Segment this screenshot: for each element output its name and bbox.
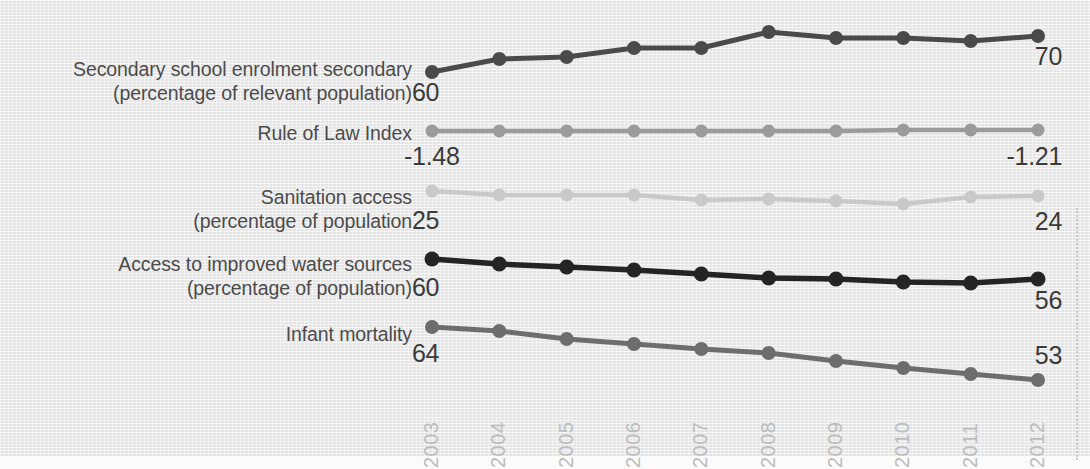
series-start-value-1: -1.48 [404, 144, 459, 169]
data-point-marker[interactable] [830, 125, 843, 138]
year-tick-2006: 2006 [623, 422, 643, 469]
data-point-marker[interactable] [896, 275, 911, 290]
series-label-line2: (percentage of population) [0, 276, 412, 300]
series-end-value-2: 24 [902, 209, 1062, 234]
series-label-line1: Access to improved water sources [0, 252, 412, 276]
data-point-marker[interactable] [896, 361, 910, 375]
series-start-value-0: 60 [412, 80, 439, 105]
series-end-value-4: 53 [902, 343, 1062, 368]
data-point-marker[interactable] [1032, 124, 1045, 137]
data-point-marker[interactable] [1032, 190, 1045, 203]
data-point-marker[interactable] [493, 125, 506, 138]
sparkline-path [432, 191, 1038, 204]
year-tick-2008: 2008 [758, 422, 778, 469]
series-label-line2: (percentage of relevant population) [0, 81, 412, 105]
year-tick-2011: 2011 [960, 423, 980, 468]
data-point-marker[interactable] [492, 324, 506, 338]
year-tick-2003: 2003 [421, 422, 441, 469]
data-point-marker[interactable] [1031, 29, 1045, 43]
year-tick-2012: 2012 [1027, 422, 1047, 469]
data-point-marker[interactable] [559, 260, 574, 275]
data-point-marker[interactable] [425, 252, 440, 267]
series-label-2: Sanitation access(percentage of populati… [0, 185, 412, 233]
series-label-line1: Sanitation access [0, 185, 412, 209]
series-start-value-2: 25 [412, 208, 439, 233]
data-point-marker[interactable] [560, 125, 573, 138]
series-label-0: Secondary school enrolment secondary(per… [0, 57, 412, 105]
sparkline-path [432, 259, 1038, 283]
data-point-marker[interactable] [1031, 272, 1046, 287]
data-point-marker[interactable] [695, 194, 708, 207]
data-point-marker[interactable] [830, 195, 843, 208]
series-label-4: Infant mortality [0, 322, 412, 346]
data-point-marker[interactable] [695, 125, 708, 138]
series-end-value-3: 56 [902, 288, 1062, 313]
data-point-marker[interactable] [829, 31, 843, 45]
data-point-marker[interactable] [426, 185, 439, 198]
series-label-line2: (percentage of population [0, 209, 412, 233]
year-tick-2007: 2007 [690, 422, 710, 469]
series-end-value-1: -1.21 [902, 144, 1062, 169]
data-point-marker[interactable] [761, 271, 776, 286]
data-point-marker[interactable] [425, 320, 439, 334]
series-start-value-3: 60 [412, 275, 439, 300]
data-point-marker[interactable] [897, 124, 910, 137]
data-point-marker[interactable] [896, 31, 910, 45]
data-point-marker[interactable] [762, 193, 775, 206]
year-tick-2005: 2005 [556, 422, 576, 469]
series-label-line1: Secondary school enrolment secondary [0, 57, 412, 81]
data-point-marker[interactable] [762, 346, 776, 360]
data-point-marker[interactable] [627, 263, 642, 278]
series-end-value-0: 70 [902, 44, 1062, 69]
data-point-marker[interactable] [694, 41, 708, 55]
data-point-marker[interactable] [694, 267, 709, 282]
data-point-marker[interactable] [694, 342, 708, 356]
data-point-marker[interactable] [628, 125, 641, 138]
data-point-marker[interactable] [964, 124, 977, 137]
data-point-marker[interactable] [1031, 373, 1045, 387]
year-tick-2009: 2009 [825, 422, 845, 469]
series-label-1: Rule of Law Index [0, 121, 412, 145]
data-point-marker[interactable] [426, 125, 439, 138]
data-point-marker[interactable] [560, 332, 574, 346]
series-label-line1: Infant mortality [0, 322, 412, 346]
data-point-marker[interactable] [964, 367, 978, 381]
data-point-marker[interactable] [560, 50, 574, 64]
data-point-marker[interactable] [560, 189, 573, 202]
series-start-value-4: 64 [412, 341, 439, 366]
data-point-marker[interactable] [762, 125, 775, 138]
data-point-marker[interactable] [628, 189, 641, 202]
data-point-marker[interactable] [493, 189, 506, 202]
data-point-marker[interactable] [829, 272, 844, 287]
data-point-marker[interactable] [897, 198, 910, 211]
data-point-marker[interactable] [627, 41, 641, 55]
data-point-marker[interactable] [964, 34, 978, 48]
dotted-vertical-rule [1076, 208, 1078, 460]
sparkline-path [432, 130, 1038, 131]
series-label-3: Access to improved water sources(percent… [0, 252, 412, 300]
data-point-marker[interactable] [829, 354, 843, 368]
year-tick-2010: 2010 [892, 422, 912, 469]
data-point-marker[interactable] [963, 276, 978, 291]
data-point-marker[interactable] [492, 52, 506, 66]
data-point-marker[interactable] [425, 65, 439, 79]
data-point-marker[interactable] [627, 337, 641, 351]
year-tick-2004: 2004 [488, 422, 508, 469]
series-label-line1: Rule of Law Index [0, 121, 412, 145]
data-point-marker[interactable] [492, 257, 507, 272]
sparkline-chart: Secondary school enrolment secondary(per… [0, 0, 1090, 469]
data-point-marker[interactable] [762, 25, 776, 39]
data-point-marker[interactable] [964, 191, 977, 204]
